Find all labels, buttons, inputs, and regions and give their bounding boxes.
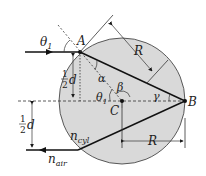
gamma-label: γ	[153, 90, 160, 103]
half-d-top-d: d	[69, 73, 77, 87]
point-a-label: A	[76, 34, 86, 48]
theta1-top-label: θ1	[40, 35, 52, 51]
radius-top-label: R	[133, 44, 143, 58]
n-air-label: nair	[48, 152, 68, 168]
half-d-bot-d: d	[27, 118, 35, 132]
radius-bottom-label: R	[147, 134, 157, 148]
half-d-bot-num: 1	[20, 114, 26, 124]
point-b	[183, 99, 187, 103]
half-d-bot-den: 2	[20, 125, 26, 135]
half-d-top-num: 1	[62, 69, 68, 79]
cylinder-refraction-diagram: θ1 A R α β γ θ1 C B 1 2 d 1 2 d ncyl nai…	[0, 0, 206, 176]
half-d-top-den: 2	[62, 80, 68, 90]
point-c-label: C	[110, 104, 119, 118]
alpha-label: α	[98, 72, 106, 85]
beta-label: β	[116, 81, 123, 94]
point-b-label: B	[187, 95, 197, 109]
